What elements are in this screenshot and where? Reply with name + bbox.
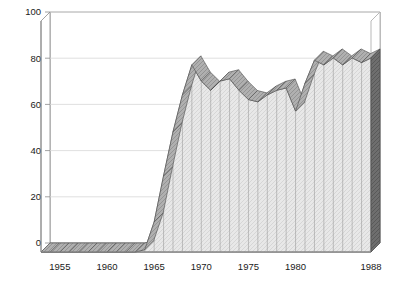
area-chart: 0204060801001955196019651970197519801988: [0, 0, 396, 291]
y-tick-label-100: 100: [25, 6, 41, 17]
y-tick-label-40: 40: [30, 145, 41, 156]
x-tick-label-1980: 1980: [285, 261, 306, 272]
x-tick-label-1960: 1960: [96, 261, 117, 272]
y-tick-label-20: 20: [30, 191, 41, 202]
x-tick-label-1970: 1970: [191, 261, 212, 272]
x-tick-label-1955: 1955: [49, 261, 70, 272]
plot-left-wall: [41, 12, 50, 252]
y-tick-label-80: 80: [30, 53, 41, 64]
x-tick-label-1965: 1965: [144, 261, 165, 272]
chart-container: 0204060801001955196019651970197519801988: [0, 0, 396, 291]
x-tick-label-1988: 1988: [360, 261, 381, 272]
y-tick-label-60: 60: [30, 99, 41, 110]
area-right-side-face: [371, 49, 380, 252]
y-tick-label-0: 0: [36, 237, 41, 248]
x-tick-label-1975: 1975: [238, 261, 259, 272]
